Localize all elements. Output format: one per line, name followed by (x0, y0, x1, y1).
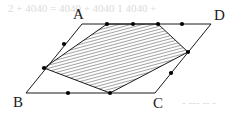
figure-canvas: 2 + 4040 = 4040 + 4040 1 4040 + - --- --… (0, 0, 236, 117)
point-cd-1 (169, 71, 173, 75)
point-ab-2 (42, 66, 46, 70)
point-bc-2 (108, 91, 112, 95)
vertex-label-a: A (73, 6, 84, 22)
point-ab-1 (62, 42, 66, 46)
point-cd-2 (186, 50, 190, 54)
shaded-quadrilateral (44, 24, 188, 93)
vertex-label-c: C (153, 95, 163, 111)
point-ad-2 (131, 22, 135, 26)
bleed-text-bottom: - --- -- - (182, 96, 216, 108)
point-bc-1 (66, 91, 70, 95)
point-ad-4 (180, 22, 184, 26)
point-ad-3 (156, 22, 160, 26)
geometry-figure: 2 + 4040 = 4040 + 4040 1 4040 + - --- --… (0, 0, 236, 117)
point-ad-1 (105, 22, 109, 26)
vertex-label-d: D (214, 7, 225, 23)
vertex-label-b: B (13, 94, 23, 110)
